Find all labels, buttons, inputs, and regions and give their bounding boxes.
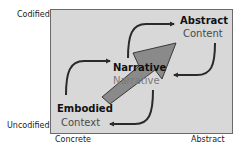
narrative-node-subtitle: Narrative [113, 75, 160, 86]
embodied-node-title: Embodied [57, 103, 113, 114]
progression-arrow-icon [102, 43, 176, 104]
curve-arrow-embodied-to-narrative-icon [66, 61, 110, 95]
embodied-node-subtitle: Context [61, 117, 100, 128]
abstract-node-subtitle: Content [183, 28, 223, 39]
abstract-node-title: Abstract [180, 15, 228, 26]
narrative-node-title: Narrative [113, 62, 166, 73]
curve-arrow-abstract-to-narrative-icon [174, 43, 215, 75]
